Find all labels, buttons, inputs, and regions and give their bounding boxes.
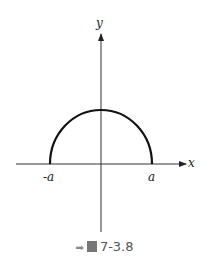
y-axis-label: y <box>96 17 103 29</box>
x-axis-label: x <box>188 157 195 169</box>
semicircle-diagram <box>0 0 209 261</box>
caption-number: 7-3.8 <box>100 239 134 254</box>
pos-a-label: a <box>148 171 155 183</box>
arrow-icon: ➡ <box>75 242 83 253</box>
figure-icon <box>87 241 97 252</box>
neg-a-label: -a <box>43 171 54 183</box>
figure-caption: ➡7-3.8 <box>0 239 209 254</box>
